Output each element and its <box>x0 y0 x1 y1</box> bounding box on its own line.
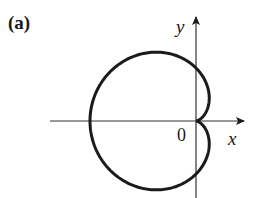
origin-label: 0 <box>177 125 186 146</box>
cardioid-plot <box>0 0 256 198</box>
x-axis-label: x <box>228 128 236 150</box>
y-axis-label: y <box>176 16 184 38</box>
